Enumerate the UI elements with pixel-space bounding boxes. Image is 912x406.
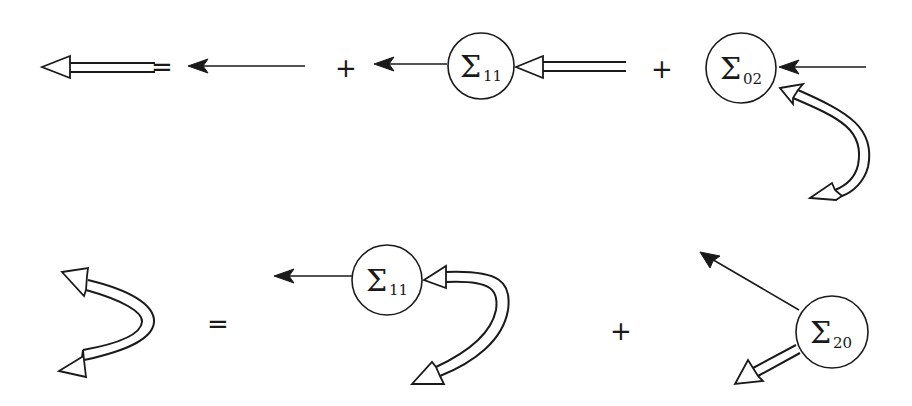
equals-sign: = xyxy=(207,309,229,339)
self-energy-node-sigma-20: Σ 20 xyxy=(796,296,868,368)
curved-double-arrow-icon xyxy=(780,84,869,200)
curved-double-arrow-icon xyxy=(412,266,509,384)
svg-text:20: 20 xyxy=(833,334,852,352)
u-shaped-double-arrow-icon xyxy=(59,268,154,377)
plus-sign: + xyxy=(335,53,357,83)
single-arrow-left-icon xyxy=(779,60,866,74)
double-arrow-left-icon xyxy=(42,56,155,78)
svg-text:Σ: Σ xyxy=(366,263,387,298)
svg-text:11: 11 xyxy=(389,281,408,299)
double-arrow-left-icon xyxy=(516,56,626,78)
self-energy-node-sigma-11: Σ 11 xyxy=(352,245,422,315)
self-energy-node-sigma-11: Σ 11 xyxy=(448,33,514,99)
svg-text:11: 11 xyxy=(483,67,502,85)
single-arrow-left-icon xyxy=(274,269,352,283)
svg-text:Σ: Σ xyxy=(460,49,481,84)
plus-sign: + xyxy=(651,54,673,84)
svg-text:Σ: Σ xyxy=(720,51,741,86)
single-arrow-left-icon xyxy=(374,57,447,71)
diagonal-arrow-up-left-icon xyxy=(700,252,799,310)
svg-text:02: 02 xyxy=(743,70,762,88)
feynman-diagram-canvas: = + Σ 11 + Σ 02 xyxy=(0,0,912,406)
single-arrow-left-icon xyxy=(188,59,305,73)
double-arrow-down-left-icon xyxy=(735,345,800,384)
self-energy-node-sigma-02: Σ 02 xyxy=(706,33,776,103)
equals-sign: = xyxy=(151,52,173,82)
plus-sign: + xyxy=(610,316,632,346)
svg-text:Σ: Σ xyxy=(810,315,831,350)
